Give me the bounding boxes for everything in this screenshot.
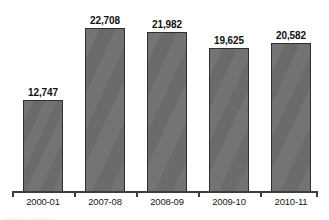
bar-chart: 12,747 22,708 21,982 19,625 20,582 2000-… [0, 0, 329, 220]
bar-rect[interactable] [147, 32, 187, 192]
bar-group: 12,747 [23, 0, 63, 192]
bar-value-label: 12,747 [14, 87, 72, 98]
clipped-caption-text: clipped caption [2, 212, 202, 220]
bar-group: 21,982 [147, 0, 187, 192]
bar-rect[interactable] [23, 100, 63, 192]
bar-value-label: 20,582 [262, 30, 320, 41]
bar-rect[interactable] [209, 48, 249, 192]
plot-area: 12,747 22,708 21,982 19,625 20,582 [0, 0, 329, 192]
bar-value-label: 22,708 [76, 15, 134, 26]
bar-value-label: 21,982 [138, 19, 196, 30]
bar-rect[interactable] [85, 28, 125, 192]
x-axis-line [12, 191, 318, 193]
x-axis-category-label: 2000-01 [11, 196, 75, 207]
x-axis-category-label: 2009-10 [197, 196, 261, 207]
x-axis-category-label: 2007-08 [73, 196, 137, 207]
x-axis-category-label: 2010-11 [259, 196, 323, 207]
x-axis-category-label: 2008-09 [135, 196, 199, 207]
bar-value-label: 19,625 [200, 35, 258, 46]
bar-group: 20,582 [271, 0, 311, 192]
bar-group: 22,708 [85, 0, 125, 192]
bar-group: 19,625 [209, 0, 249, 192]
bar-rect[interactable] [271, 43, 311, 192]
x-axis-labels: 2000-01 2007-08 2008-09 2009-10 2010-11 [0, 196, 329, 212]
